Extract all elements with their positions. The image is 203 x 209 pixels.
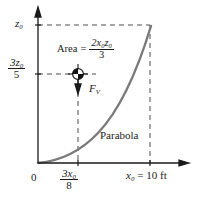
fraction-3x0-over-8: 3x0 8 xyxy=(60,168,78,192)
area-num-sub1: 0 xyxy=(101,42,104,49)
x0-subscript: 0 xyxy=(131,175,134,182)
axes xyxy=(35,7,189,166)
centroid-quadrant-lower-right xyxy=(78,74,83,79)
fraction-denominator: 5 xyxy=(8,68,25,80)
3z0-subscript: 0 xyxy=(20,62,23,69)
x-axis-label-centroid-position: 3x0 8 xyxy=(60,168,78,192)
fv-base: F xyxy=(89,82,96,94)
force-arrow-head xyxy=(75,84,81,94)
centroid-quadrant-upper-left xyxy=(73,69,78,74)
x0-equals-value: = 10 ft xyxy=(137,169,166,181)
fraction-denominator: 8 xyxy=(60,179,78,191)
curve-label-parabola: Parabola xyxy=(100,130,138,141)
fraction-denominator: 3 xyxy=(89,49,114,61)
x-axis-arrowhead xyxy=(179,160,189,166)
area-num-mid: z xyxy=(105,37,109,48)
origin-label: 0 xyxy=(31,172,37,183)
3x0-base: 3x xyxy=(62,167,72,179)
y-axis-arrowhead xyxy=(35,7,41,17)
fraction-3z0-over-5: 3z0 5 xyxy=(8,57,25,81)
fraction-numerator: 3z0 xyxy=(8,57,25,68)
y-axis-label-z0: z0 xyxy=(15,18,23,29)
area-word: Area xyxy=(57,43,77,54)
parabola-area-figure: z0 3z0 5 0 3x0 8 x0= 10 ft Area= 2x0z0 3… xyxy=(0,0,203,209)
x-axis-label-x0-value: x0= 10 ft xyxy=(126,170,167,181)
area-num-prefix: 2x xyxy=(91,37,101,48)
3x0-subscript: 0 xyxy=(72,173,75,180)
area-annotation: Area= 2x0z0 3 xyxy=(57,38,114,61)
area-num-sub2: 0 xyxy=(109,42,112,49)
fraction-numerator: 3x0 xyxy=(60,168,78,179)
force-label-fv: FV xyxy=(89,83,100,94)
z0-subscript: 0 xyxy=(19,23,22,30)
y-axis-label-centroid-height: 3z0 5 xyxy=(8,57,25,81)
fraction-numerator: 2x0z0 xyxy=(89,38,114,49)
fv-subscript: V xyxy=(96,88,100,95)
3z0-base: 3z xyxy=(10,56,20,68)
centroid-marker xyxy=(68,64,88,84)
area-equals: = xyxy=(80,43,86,54)
fraction-area: 2x0z0 3 xyxy=(89,38,114,61)
